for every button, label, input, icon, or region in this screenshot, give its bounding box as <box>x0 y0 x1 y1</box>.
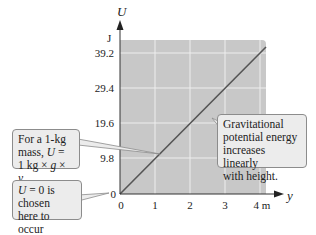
x-tick-label: 3 <box>222 199 228 211</box>
callout-line: potential energy <box>223 131 301 144</box>
x-tick-label: 2 <box>187 199 193 211</box>
y-tick-label: 0 <box>111 188 117 200</box>
y-tick-label: 39.2 <box>95 47 114 59</box>
callout-pointer <box>78 193 109 201</box>
callout-text: 1 kg × <box>18 159 50 171</box>
callout-text: × <box>56 159 65 171</box>
callout-line: increases linearly <box>223 144 301 170</box>
callout-text: U <box>47 146 55 158</box>
y-axis-arrow-icon <box>117 20 124 30</box>
callout-text: = <box>55 146 64 158</box>
y-tick-label: 29.4 <box>95 82 115 94</box>
y-tick-label: 19.6 <box>95 117 115 129</box>
x-axis-arrow-icon <box>274 191 284 198</box>
y-unit-label: J <box>107 32 112 44</box>
callout-line: with height. <box>223 170 301 183</box>
callout-line: here to occur <box>18 210 76 235</box>
callout-line: For a 1-kg <box>18 133 74 146</box>
x-tick-label: 0 <box>118 199 124 211</box>
callout-text: mass, <box>18 146 47 158</box>
x-axis-label: y <box>285 188 293 203</box>
callout-mass-formula: For a 1-kg mass, U = 1 kg × g × y. <box>12 129 80 169</box>
y-axis-label: U <box>117 4 128 19</box>
callout-line: Gravitational <box>223 118 301 131</box>
x-tick-label: 4 m <box>254 199 271 211</box>
callout-zero-reference: U = 0 is chosen here to occur at y = 0. <box>12 180 82 220</box>
callout-line: mass, U = <box>18 146 74 159</box>
y-tick-label: 9.8 <box>100 152 114 164</box>
callout-linear-increase: Gravitational potential energy increases… <box>217 114 307 168</box>
x-tick-label: 1 <box>152 199 158 211</box>
callout-line: U = 0 is chosen <box>18 184 76 210</box>
